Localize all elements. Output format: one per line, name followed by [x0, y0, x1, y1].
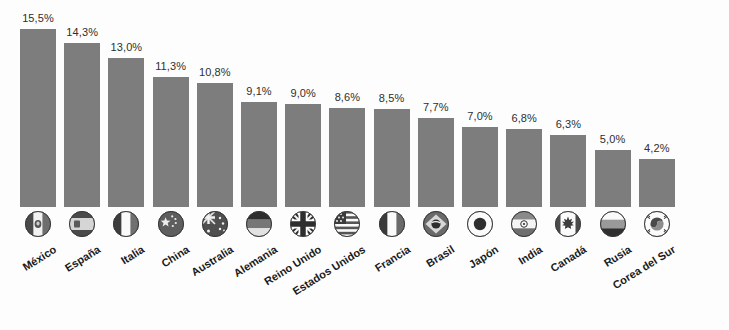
bar-value-label: 4,2%: [644, 142, 669, 154]
bar: [418, 118, 454, 207]
bar-value-label: 7,7%: [423, 101, 448, 113]
bar: [374, 109, 410, 207]
bar-value-label: 14,3%: [66, 26, 98, 38]
flag-spain-icon: [69, 211, 95, 237]
bar-value-label: 11,3%: [155, 60, 186, 72]
bar: [462, 127, 498, 208]
bar: [595, 150, 631, 208]
bar: [506, 129, 542, 207]
flag-france-icon: [379, 211, 405, 237]
bar-value-label: 13,0%: [111, 41, 143, 53]
bar-value-label: 6,3%: [556, 118, 581, 130]
bar: [550, 135, 586, 207]
flag-china-icon: [158, 211, 184, 237]
flag-germany-icon: [246, 211, 272, 237]
bar: [20, 29, 56, 207]
flag-japan-icon: [467, 211, 493, 237]
flag-australia-icon: [202, 211, 228, 237]
bar: [64, 43, 100, 207]
bar: [197, 83, 233, 207]
bar-value-label: 7,0%: [467, 110, 492, 122]
flag-brazil-icon: [423, 211, 449, 237]
bar-value-label: 9,1%: [246, 85, 271, 97]
flag-russia-icon: [600, 211, 626, 237]
flag-mexico-icon: [25, 211, 51, 237]
flag-united-kingdom-icon: [290, 211, 316, 237]
flag-south-korea-icon: [644, 211, 670, 237]
bar: [285, 104, 321, 208]
bar: [108, 58, 144, 208]
bar-value-label: 15,5%: [22, 12, 54, 24]
bar-chart: 15,5%México14,3%España13,0%Italia11,3%Ch…: [0, 0, 729, 330]
flag-india-icon: [511, 211, 537, 237]
bar-value-label: 6,8%: [511, 112, 536, 124]
bar-group: 4,2%: [639, 0, 675, 330]
bar: [153, 77, 189, 207]
bar-value-label: 10,8%: [199, 66, 231, 78]
flag-united-states-icon: [334, 211, 360, 237]
flag-canada-icon: [555, 211, 581, 237]
bar-value-label: 8,5%: [379, 92, 404, 104]
bar-value-label: 8,6%: [335, 91, 360, 103]
bar: [329, 108, 365, 207]
flag-italy-icon: [113, 211, 139, 237]
bar-value-label: 9,0%: [290, 87, 315, 99]
bar: [639, 159, 675, 207]
bar: [241, 102, 277, 207]
bar-value-label: 5,0%: [600, 133, 625, 145]
